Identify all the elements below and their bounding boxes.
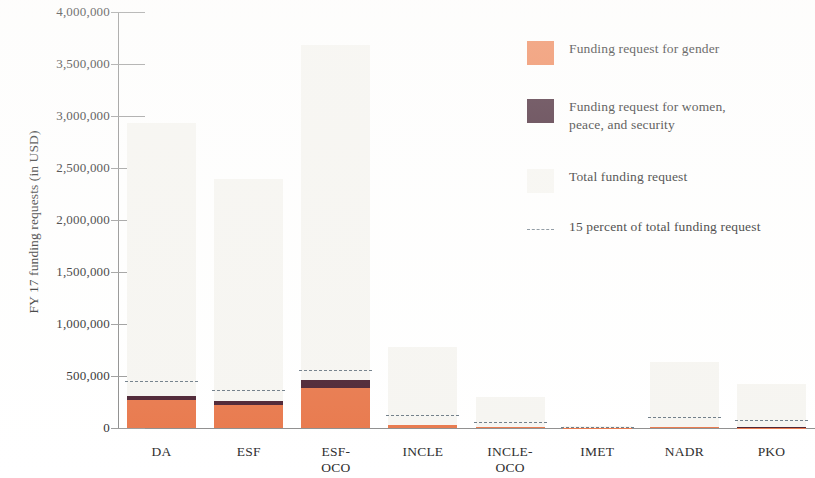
bar-segment-gender[interactable] (127, 400, 196, 428)
y-axis-tick-label: 2,500,000 (56, 160, 110, 176)
legend-label: 15 percent of total funding request (569, 218, 761, 236)
reference-line-15-percent (735, 420, 808, 421)
x-axis-line (118, 428, 815, 429)
y-axis-tick-label: 0 (103, 420, 110, 436)
legend-swatch-dashed-icon (527, 229, 554, 230)
legend-item[interactable]: Funding request for gender (527, 40, 720, 65)
reference-line-15-percent (474, 422, 547, 423)
y-axis-tick (111, 428, 145, 429)
bar-segment-gender[interactable] (301, 388, 370, 428)
bar-segment-gender[interactable] (650, 427, 719, 428)
y-axis-tick-label: 4,000,000 (56, 4, 110, 20)
reference-line-15-percent (299, 370, 372, 371)
y-axis-tick-label: 500,000 (66, 368, 110, 384)
reference-line-15-percent (212, 390, 285, 391)
reference-line-15-percent (386, 415, 459, 416)
legend-label: Funding request for women,peace, and sec… (569, 98, 726, 133)
legend-label: Funding request for gender (569, 40, 720, 58)
y-axis-tick-label: 1,000,000 (56, 316, 110, 332)
y-axis-title: FY 17 funding requests (in USD) (26, 102, 42, 342)
bar-segment-gender[interactable] (476, 427, 545, 428)
x-axis-label: PKO (711, 444, 815, 460)
bar-group[interactable] (214, 12, 283, 428)
legend-swatch-gender-icon (527, 41, 554, 65)
bar-group[interactable] (388, 12, 457, 428)
y-axis-tick-label: 3,500,000 (56, 56, 110, 72)
bar-group[interactable] (301, 12, 370, 428)
legend-swatch-total-icon (527, 169, 554, 193)
reference-line-15-percent (648, 417, 721, 418)
bar-group[interactable] (127, 12, 196, 428)
legend-swatch-wps-icon (527, 99, 554, 123)
reference-line-15-percent (125, 381, 198, 382)
legend-item[interactable]: 15 percent of total funding request (527, 218, 761, 236)
legend-item[interactable]: Funding request for women,peace, and sec… (527, 98, 726, 133)
reference-line-15-percent (561, 427, 634, 428)
bar-segment-gender[interactable] (388, 425, 457, 428)
bar-segment-gender[interactable] (214, 405, 283, 428)
y-axis-tick-label: 2,000,000 (56, 212, 110, 228)
legend-item[interactable]: Total funding request (527, 168, 687, 193)
y-axis-tick-label: 3,000,000 (56, 108, 110, 124)
legend-label: Total funding request (569, 168, 687, 186)
y-axis-tick-label: 1,500,000 (56, 264, 110, 280)
chart-figure: FY 17 funding requests (in USD) 4,000,00… (0, 0, 815, 478)
